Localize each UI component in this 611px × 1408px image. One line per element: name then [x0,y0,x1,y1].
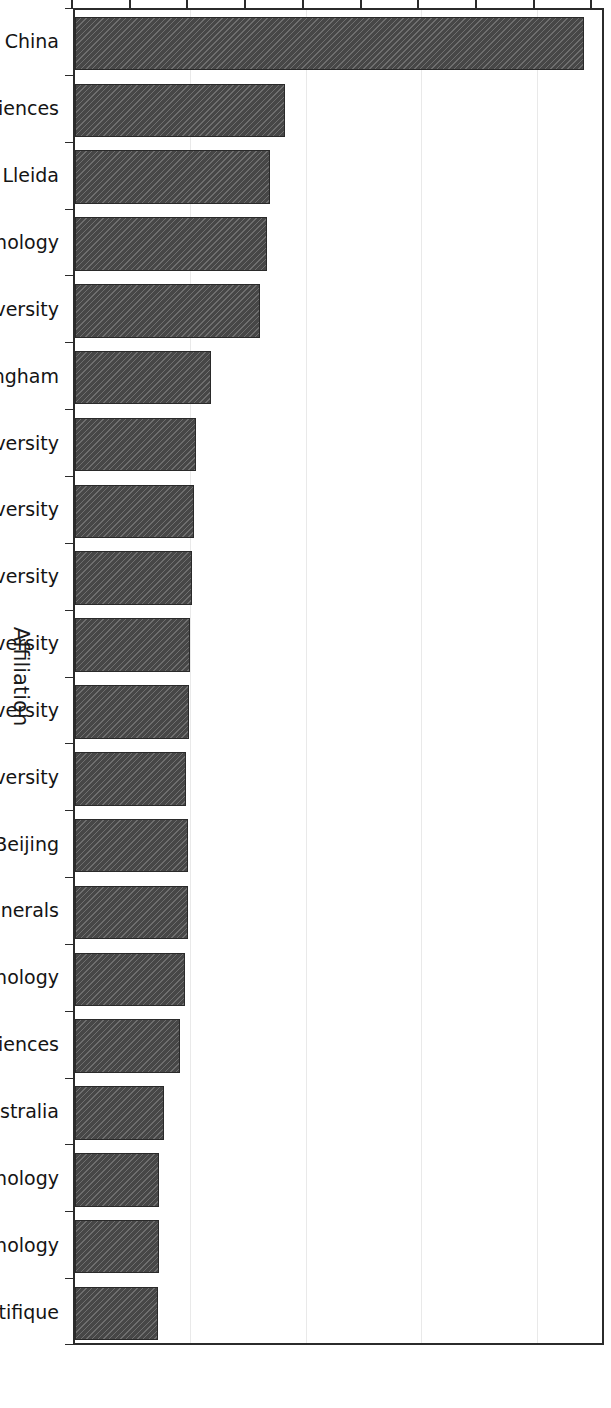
category-label: Universitat de Lleida [0,166,59,185]
category-tick [65,142,73,143]
category-axis-title: Affiliation [9,627,33,726]
value-tick-minor [475,0,477,8]
value-tick-minor [360,0,362,8]
bar [75,418,196,471]
bar [75,150,270,203]
value-tick-major [417,0,419,8]
value-tick-minor [244,0,246,8]
bar [75,819,188,872]
bar [75,551,192,604]
bar [75,1220,159,1273]
category-tick [65,476,73,477]
category-tick [65,543,73,544]
category-tick [65,743,73,744]
category-tick [65,810,73,811]
bar [75,84,285,137]
value-tick-minor [129,0,131,8]
bar [75,351,211,404]
bar [75,1153,159,1206]
category-tick [65,877,73,878]
category-label: Shanghai Jiao Tong University [0,500,59,519]
category-label: University of Birmingham [0,366,59,385]
category-tick [65,1011,73,1012]
category-label: Ministry of Education China [0,32,59,51]
category-label: Harbin Institute of Technology [0,1168,59,1187]
category-tick [65,342,73,343]
plot-area [73,8,604,1345]
bar [75,618,190,671]
category-tick [65,677,73,678]
bar [75,953,185,1006]
category-axis-ticks [63,8,73,1345]
category-label: South China University of Technology [0,232,59,251]
category-tick [65,944,73,945]
value-tick-major [302,0,304,8]
chart-figure: 0100200300400Number of publications Mini… [0,0,611,1408]
bar [75,1086,164,1139]
category-label: Chinese Academy of Sciences [0,99,59,118]
category-tick [65,1211,73,1212]
category-label: Karadeniz Technical University [0,767,59,786]
category-tick [65,209,73,210]
category-tick [65,1278,73,1279]
category-label: Tsinghua University [0,433,59,452]
bar [75,886,188,939]
bar [75,1019,180,1072]
value-tick-minor [590,0,592,8]
category-label: University of Science and Technology Bei… [0,834,59,853]
category-label: CNRS Centre National de la Recherche Sci… [0,1302,59,1321]
rotated-chart-stage: 0100200300400Number of publications Mini… [0,0,611,1408]
bar [75,17,584,70]
category-tick [65,1078,73,1079]
category-label: University of South Australia [0,1102,59,1121]
category-tick [65,275,73,276]
category-tick [65,1344,73,1345]
category-label: Xi'an Jiaotong University [0,299,59,318]
category-label: Guangdong University of Technology [0,1235,59,1254]
category-label: University of Chinese Academy of Science… [0,1035,59,1054]
bar [75,1287,158,1340]
category-tick [65,610,73,611]
bar [75,284,260,337]
category-tick [65,75,73,76]
category-tick [65,409,73,410]
value-tick-major [533,0,535,8]
category-label: Anna University [0,567,59,586]
value-tick-major [71,0,73,8]
value-tick-major [186,0,188,8]
category-label: China University of Mining and Technolog… [0,968,59,987]
bar [75,752,186,805]
category-tick [65,8,73,9]
bar [75,685,189,738]
category-tick [65,1144,73,1145]
bar [75,485,194,538]
category-label: King Fahd University of Petroleum and Mi… [0,901,59,920]
bar [75,217,267,270]
bar-series [75,10,602,1343]
